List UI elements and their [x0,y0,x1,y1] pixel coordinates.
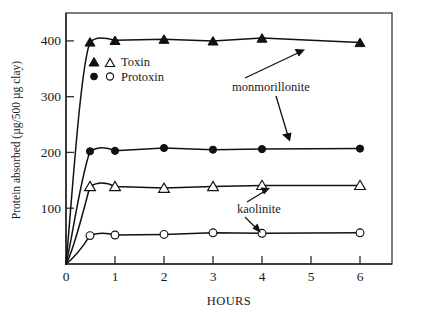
data-point [111,147,118,154]
plot-frame [66,13,392,264]
open-circle-icon [106,73,113,80]
data-point [356,229,364,237]
y-tick-label-300: 300 [41,89,62,104]
curve-toxin-kaolinite [66,183,360,264]
legend-label-protoxin: Protoxin [121,70,165,84]
data-point [111,231,119,239]
legend-label-toxin: Toxin [121,55,151,69]
curve-protoxin-monmorillonite [66,148,360,264]
data-point [86,148,93,155]
data-point [209,146,216,153]
x-tick-label-2: 2 [161,269,168,284]
x-tick-marks [66,256,360,264]
y-tick-label-400: 400 [41,33,62,48]
y-tick-label-100: 100 [41,201,62,216]
annotation-arrow-monmorillonite-toxin [245,49,305,78]
data-point [86,232,94,240]
x-tick-label-6: 6 [357,269,364,284]
data-point [209,229,217,237]
data-point [356,145,363,152]
x-tick-label-3: 3 [210,269,217,284]
chart-svg: 0 1 2 3 4 5 6 100 200 300 400 HOURS Prot… [0,0,425,315]
open-triangle-icon [105,59,114,67]
data-point [160,144,167,151]
data-point [258,146,265,153]
legend: Toxin Protoxin [89,55,165,84]
annotation-label-kaolinite: kaolinite [237,202,281,216]
data-point [85,181,96,190]
chart-figure: 0 1 2 3 4 5 6 100 200 300 400 HOURS Prot… [0,0,425,315]
annotation-label-monmorillonite: monmorillonite [232,80,310,94]
filled-triangle-icon [89,58,99,67]
filled-circle-icon [91,73,98,80]
y-axis-title: Protein absorbed (µg/500 µg clay) [10,61,23,219]
data-point [160,231,168,239]
x-tick-label-5: 5 [308,269,315,284]
y-tick-label-200: 200 [41,145,62,160]
x-tick-label-4: 4 [259,269,266,284]
annotation-arrow-monmorillonite-protoxin [276,96,292,142]
x-axis-title: HOURS [207,294,251,308]
annotation-arrow-kaolinite-protoxin [245,217,261,233]
x-tick-label-0: 0 [63,269,70,284]
x-tick-label-1: 1 [112,269,119,284]
